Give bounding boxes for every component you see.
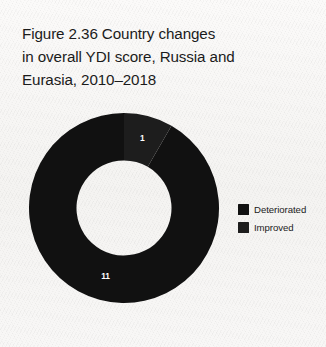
donut-chart-svg: 11 1 <box>29 113 219 303</box>
chart-legend: Deteriorated Improved <box>238 202 306 234</box>
pie-slice-label-deteriorated: 11 <box>101 271 110 281</box>
legend-item-improved[interactable]: Improved <box>238 220 306 234</box>
square-swatch-icon <box>238 222 249 233</box>
donut-chart: 11 1 <box>29 113 219 303</box>
legend-label-deteriorated: Deteriorated <box>254 204 306 215</box>
pie-slice-label-improved: 1 <box>140 133 145 143</box>
legend-label-improved: Improved <box>254 222 294 233</box>
figure-container: Figure 2.36 Country changes in overall Y… <box>0 0 326 347</box>
legend-item-deteriorated[interactable]: Deteriorated <box>238 202 306 216</box>
square-swatch-icon <box>238 204 249 215</box>
figure-title: Figure 2.36 Country changes in overall Y… <box>22 22 312 91</box>
